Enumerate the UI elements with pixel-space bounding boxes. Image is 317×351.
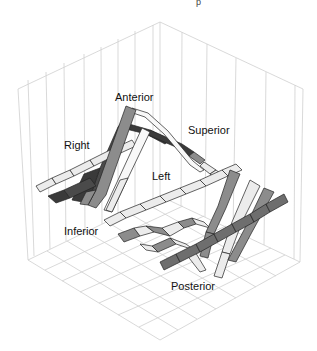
label-left: Left — [152, 170, 170, 182]
label-superior: Superior — [188, 124, 230, 136]
ribbon-inferior-mid — [118, 218, 210, 242]
label-anterior: Anterior — [115, 91, 154, 103]
label-right: Right — [64, 139, 90, 151]
ribbon-inferior-low — [140, 238, 206, 272]
ribbon-anterior-mid — [80, 106, 136, 208]
label-posterior: Posterior — [171, 280, 215, 292]
label-inferior: Inferior — [64, 225, 98, 237]
